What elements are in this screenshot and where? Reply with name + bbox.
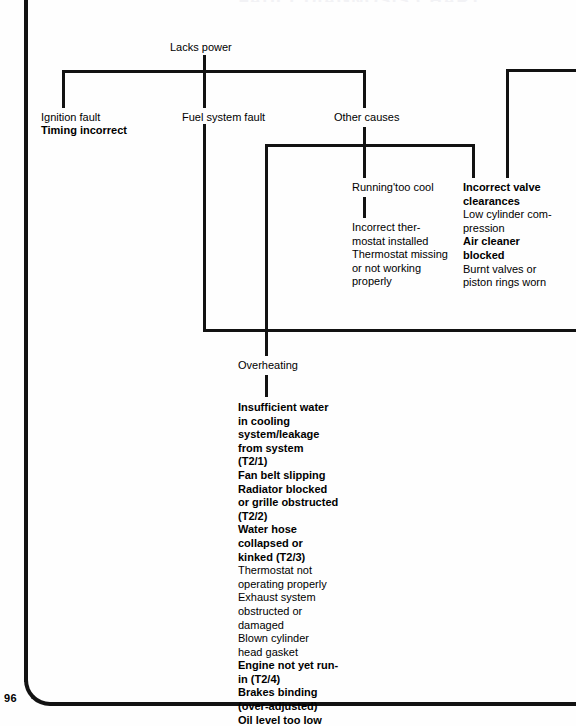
- cause-item: Engine not yet run-: [238, 659, 338, 673]
- cause-item: or grille obstructed: [238, 496, 338, 510]
- cause-item: damaged: [238, 619, 338, 633]
- cause-item: obstructed or: [238, 605, 338, 619]
- connector-drop-overheating: [265, 329, 268, 356]
- cause-item: (T2/2): [238, 510, 338, 524]
- connector-drop-other-causes-left: [265, 144, 268, 331]
- cause-item: (T2/1): [238, 455, 338, 469]
- connector-right-edge-bus: [506, 69, 576, 72]
- cause-item: Exhaust system: [238, 591, 338, 605]
- node-label-overheating: Overheating: [238, 359, 298, 372]
- cause-item: Incorrect ther-: [352, 221, 448, 235]
- cause-list-valve-clearances: Incorrect valve clearances Low cylinder …: [463, 181, 552, 290]
- cause-item: mostat installed: [352, 235, 448, 249]
- cause-item: operating properly: [238, 578, 338, 592]
- cause-list-overheating: Insufficient water in cooling system/lea…: [238, 401, 338, 726]
- cause-item: pression: [463, 222, 552, 236]
- connector-drop-fuel-system-fault: [203, 70, 206, 108]
- cause-item: Thermostat missing: [352, 248, 448, 262]
- cause-item: Fan belt slipping: [238, 469, 338, 483]
- cause-item: blocked: [463, 249, 552, 263]
- cause-item: properly: [352, 275, 448, 289]
- connector-bottom-bus: [203, 329, 576, 332]
- cause-item: Radiator blocked: [238, 483, 338, 497]
- cause-item: system/leakage: [238, 428, 338, 442]
- cause-item: Timing incorrect: [41, 124, 127, 138]
- page-border-left: [24, 0, 28, 682]
- node-label-lacks-power: Lacks power: [170, 41, 232, 54]
- cause-item: piston rings worn: [463, 276, 552, 290]
- running-head: FAULT DIAGNOSIS CHART: [190, 0, 530, 2]
- connector-other-causes-bus: [265, 144, 475, 147]
- cause-list-ignition-fault: Timing incorrect: [41, 124, 127, 138]
- connector-drop-running-too-cool: [363, 144, 366, 178]
- cause-item: Insufficient water: [238, 401, 338, 415]
- cause-item: collapsed or: [238, 537, 338, 551]
- connector-drop-right-edge: [506, 69, 509, 178]
- cause-item: kinked (T2/3): [238, 551, 338, 565]
- page-canvas: FAULT DIAGNOSIS CHART 96 Lacks power Ign…: [0, 0, 576, 726]
- cause-list-running-too-cool: Incorrect ther- mostat installed Thermos…: [352, 221, 448, 289]
- node-label-running-too-cool: Running'too cool: [352, 181, 434, 194]
- cause-item: Air cleaner: [463, 235, 552, 249]
- connector-drop-other-causes: [363, 70, 366, 108]
- cause-item: in cooling: [238, 415, 338, 429]
- cause-item: from system: [238, 442, 338, 456]
- cause-item: Blown cylinder: [238, 632, 338, 646]
- page-number: 96: [4, 692, 17, 704]
- cause-item: Brakes binding: [238, 686, 338, 700]
- cause-item: Incorrect valve: [463, 181, 552, 195]
- node-label-fuel-system-fault: Fuel system fault: [182, 111, 265, 124]
- cause-item: in (T2/4): [238, 673, 338, 687]
- node-label-ignition-fault: Ignition fault: [41, 111, 100, 124]
- cause-item: Burnt valves or: [463, 263, 552, 277]
- connector-overheating-stem: [265, 375, 268, 397]
- cause-item: Thermostat not: [238, 564, 338, 578]
- cause-item: or not working: [352, 262, 448, 276]
- connector-drop-ignition-fault: [62, 70, 65, 108]
- page-border-corner: [24, 660, 84, 706]
- cause-item: Water hose: [238, 523, 338, 537]
- node-label-other-causes: Other causes: [334, 111, 399, 124]
- cause-item: (over-adjusted): [238, 700, 338, 714]
- cause-item: Low cylinder com-: [463, 208, 552, 222]
- cause-item: Oil level too low: [238, 714, 338, 726]
- cause-item: head gasket: [238, 646, 338, 660]
- connector-running-too-cool-stem: [363, 197, 366, 218]
- cause-item: clearances: [463, 195, 552, 209]
- connector-drop-valve-clearances: [472, 144, 475, 178]
- connector-drop-fuel-system-long: [203, 124, 206, 331]
- connector-level1-bus: [62, 70, 366, 73]
